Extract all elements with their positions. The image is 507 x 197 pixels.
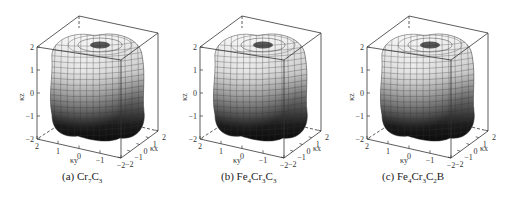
x-tick-label: −2	[455, 160, 464, 169]
x-tick-label: 0	[307, 147, 311, 156]
z-tick-label: −2	[355, 135, 364, 144]
x-tick-label: 2	[325, 133, 329, 142]
x-axis-label: κx	[313, 144, 321, 153]
x-axis-label: κx	[480, 144, 488, 153]
y-axis-label: κy	[70, 156, 78, 165]
plot-3d-a: 210−1−2κz210−1−2κy−2−1012κx	[0, 0, 175, 170]
z-tick-label: 0	[193, 89, 197, 98]
caption-a: (a) Cr7C3	[62, 170, 102, 185]
z-tick-label: 0	[30, 89, 34, 98]
z-tick-label: −1	[188, 112, 197, 121]
z-tick-label: 2	[193, 43, 197, 52]
y-axis-label: κy	[233, 156, 241, 165]
x-tick-label: 2	[492, 133, 496, 142]
y-tick-label: 2	[35, 142, 39, 151]
x-tick-label: −2	[288, 160, 297, 169]
panel-b: 210−1−2κz210−1−2κy−2−1012κx(b) Fe4Cr3C3	[163, 0, 338, 197]
z-tick-label: 1	[360, 66, 364, 75]
z-tick-label: −2	[188, 135, 197, 144]
z-tick-label: 1	[30, 66, 34, 75]
y-tick-label: 2	[365, 142, 369, 151]
z-tick-label: 2	[30, 43, 34, 52]
x-tick-label: 0	[144, 147, 148, 156]
plot-3d-c: 210−1−2κz210−1−2κy−2−1012κx	[330, 0, 505, 170]
caption-c: (c) Fe4Cr3C2B	[382, 170, 444, 185]
caption-b: (b) Fe4Cr3C3	[221, 170, 276, 185]
y-tick-label: −1	[426, 156, 435, 165]
x-tick-label: −2	[125, 160, 134, 169]
y-tick-label: 1	[56, 147, 60, 156]
y-tick-label: −1	[259, 156, 268, 165]
y-tick-label: 1	[219, 147, 223, 156]
y-tick-label: 2	[198, 142, 202, 151]
y-axis-label: κy	[400, 156, 408, 165]
y-tick-label: −2	[117, 161, 126, 170]
y-tick-label: 1	[386, 147, 390, 156]
x-tick-label: 0	[474, 147, 478, 156]
z-tick-label: 1	[193, 66, 197, 75]
plot-3d-b: 210−1−2κz210−1−2κy−2−1012κx	[163, 0, 338, 170]
z-axis-label: κz	[347, 93, 356, 101]
z-axis-label: κz	[17, 93, 26, 101]
z-tick-label: 2	[360, 43, 364, 52]
panel-c: 210−1−2κz210−1−2κy−2−1012κx(c) Fe4Cr3C2B	[330, 0, 505, 197]
x-axis-label: κx	[150, 144, 158, 153]
y-tick-label: −1	[96, 156, 105, 165]
y-tick-label: −2	[447, 161, 456, 170]
z-axis-label: κz	[180, 93, 189, 101]
y-tick-label: −2	[280, 161, 289, 170]
x-tick-label: −1	[134, 153, 143, 162]
z-tick-label: −1	[25, 112, 34, 121]
z-tick-label: −1	[355, 112, 364, 121]
panel-a: 210−1−2κz210−1−2κy−2−1012κx(a) Cr7C3	[0, 0, 175, 197]
x-tick-label: −1	[464, 153, 473, 162]
z-tick-label: −2	[25, 135, 34, 144]
x-tick-label: −1	[297, 153, 306, 162]
z-tick-label: 0	[360, 89, 364, 98]
